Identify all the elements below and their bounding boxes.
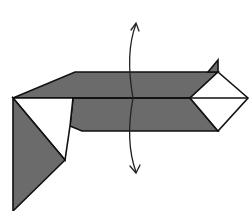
upper-band bbox=[13, 72, 218, 98]
flap-tip bbox=[208, 60, 218, 72]
origami-diagram bbox=[0, 0, 250, 211]
